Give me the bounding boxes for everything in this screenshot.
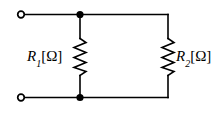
node-top (76, 11, 83, 18)
resistor-r1-subscript: 1 (36, 58, 41, 69)
terminal-top-left (18, 11, 25, 18)
terminal-bottom-left (18, 94, 25, 101)
resistor-r2-label: R2[Ω] (176, 49, 211, 67)
resistor-r1-zigzag (74, 39, 86, 76)
resistor-r1-unit: [Ω] (41, 48, 62, 64)
resistor-r1-label: R1[Ω] (27, 49, 62, 67)
resistor-r2-symbol: R (176, 48, 185, 64)
resistor-r2-zigzag (162, 39, 174, 76)
node-bottom (76, 94, 83, 101)
resistor-r2-subscript: 2 (185, 58, 190, 69)
circuit-diagram: R1[Ω] R2[Ω] (0, 0, 222, 115)
resistor-r2-unit: [Ω] (190, 48, 211, 64)
resistor-r1-symbol: R (27, 48, 36, 64)
